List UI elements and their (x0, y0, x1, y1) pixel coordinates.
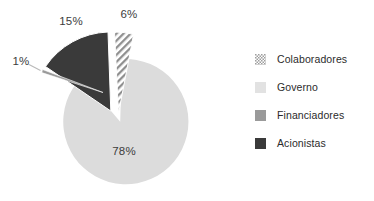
light-gray-swatch-icon (255, 82, 266, 93)
legend-label-governo: Governo (277, 81, 318, 93)
slice-label-governo: 78% (112, 145, 136, 157)
hatch-swatch-icon (255, 54, 266, 65)
legend-label-colaboradores: Colaboradores (277, 53, 347, 65)
pie-chart: 6% 15% 1% 78% Colaboradores Governo Fina… (0, 0, 374, 201)
slice-label-colaboradores: 6% (120, 8, 137, 20)
medium-gray-swatch-icon (255, 110, 266, 121)
slice-label-acionistas: 15% (59, 15, 83, 27)
legend-item-acionistas[interactable]: Acionistas (255, 137, 326, 149)
legend-label-financiadores: Financiadores (277, 109, 344, 121)
chart-background (0, 0, 374, 201)
legend-label-acionistas: Acionistas (277, 137, 326, 149)
legend-item-governo[interactable]: Governo (255, 81, 318, 93)
dark-gray-swatch-icon (255, 138, 266, 149)
slice-label-financiadores: 1% (12, 55, 29, 67)
